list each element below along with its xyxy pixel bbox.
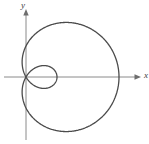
y-axis-label: y — [21, 1, 25, 10]
plot-canvas — [0, 0, 149, 144]
polar-graph-figure: y x — [0, 0, 149, 144]
x-axis-label: x — [144, 71, 148, 80]
x-axis-arrowhead — [135, 74, 142, 79]
